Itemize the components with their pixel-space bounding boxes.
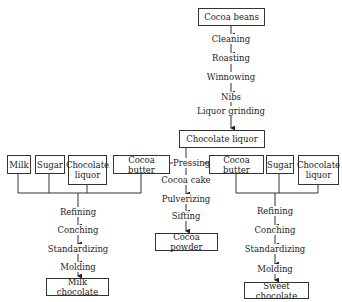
step-liquor-grinding: Liquor grinding: [186, 106, 276, 116]
input-chocolate-liquor-left: Chocolate liquor: [68, 155, 107, 185]
left-step-conching: Conching: [53, 225, 103, 235]
center-step-pulverizing: Pulverizing: [156, 194, 216, 204]
step-cleaning: Cleaning: [201, 34, 261, 44]
input-milk: Milk: [7, 155, 31, 174]
right-step-refining: Refining: [250, 206, 300, 216]
left-step-standardizing: Standardizing: [43, 244, 113, 254]
node-chocolate-liquor-hub: Chocolate liquor: [179, 130, 265, 148]
left-step-refining: Refining: [53, 207, 103, 217]
right-step-molding: Molding: [250, 264, 300, 274]
step-nibs: Nibs: [211, 92, 251, 102]
output-milk-chocolate: Milk chocolate: [46, 278, 109, 296]
step-pressing: Pressing: [173, 158, 204, 168]
step-winnowing: Winnowing: [196, 72, 266, 82]
input-cocoa-butter-right: Cocoa butter: [209, 155, 264, 174]
right-step-conching: Conching: [250, 225, 300, 235]
center-step-cocoa-cake: Cocoa cake: [156, 175, 216, 185]
right-step-standardizing: Standardizing: [240, 244, 310, 254]
input-sugar-left: Sugar: [35, 155, 65, 174]
step-roasting: Roasting: [201, 53, 261, 63]
input-cocoa-butter-left: Cocoa butter: [113, 155, 170, 174]
node-cocoa-beans: Cocoa beans: [198, 8, 265, 26]
output-sweet-chocolate: Sweet chocolate: [244, 282, 309, 299]
input-sugar-right: Sugar: [266, 155, 294, 174]
center-step-sifting: Sifting: [161, 211, 211, 221]
connector-lines: [0, 0, 342, 302]
left-step-molding: Molding: [53, 262, 103, 272]
output-cocoa-powder: Cocoa powder: [155, 233, 218, 251]
input-chocolate-liquor-right: Chocolate liquor: [298, 155, 339, 185]
